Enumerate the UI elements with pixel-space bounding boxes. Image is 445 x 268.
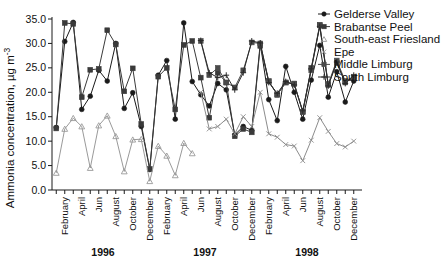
legend-marker [322, 12, 326, 16]
x-axis-month-label: Jun [297, 197, 308, 212]
x-axis-month-label: December [144, 197, 155, 241]
data-point [275, 118, 280, 123]
y-axis-label: Ammonia concentration, µg m-3 [2, 47, 16, 208]
x-axis-month-label: October [331, 197, 342, 231]
data-point [79, 107, 84, 112]
y-tick-label: 30.0 [26, 37, 47, 49]
data-point [326, 95, 331, 100]
data-point [190, 79, 195, 84]
data-point [156, 74, 161, 79]
data-point [130, 90, 135, 95]
y-tick-label: 5.0 [31, 159, 46, 171]
x-axis-month-label: August [212, 197, 223, 227]
data-point [54, 126, 59, 131]
x-axis-month-label: October [229, 197, 240, 231]
x-axis-month-label: August [110, 197, 121, 227]
legend-label: Middle Limburg [334, 58, 413, 70]
x-axis-month-label: December [348, 197, 359, 241]
data-point [190, 39, 195, 44]
x-axis-month-label: April [76, 197, 87, 216]
x-axis-month-label: Jun [195, 197, 206, 212]
x-axis-month-label: October [127, 197, 138, 231]
x-axis-month-label: February [59, 197, 70, 235]
data-point [105, 79, 110, 84]
data-point [122, 89, 127, 94]
data-point [198, 75, 203, 80]
data-point [300, 117, 305, 122]
x-axis-month-label: Jun [93, 197, 104, 212]
y-axis-label-exponent: -3 [2, 47, 12, 55]
y-tick-label: 15.0 [26, 110, 47, 122]
data-point [139, 122, 144, 127]
data-point [249, 130, 254, 135]
data-point [181, 42, 186, 47]
legend-label: Epe [334, 46, 354, 58]
data-point [173, 117, 178, 122]
x-axis-month-label: April [280, 197, 291, 216]
data-point [283, 64, 288, 69]
x-axis-month-label: April [178, 197, 189, 216]
data-point [62, 21, 67, 26]
legend-label: Gelderse Valley [334, 8, 415, 20]
x-axis-year-label: 1996 [91, 246, 115, 258]
data-point [207, 115, 212, 120]
y-tick-label: 25.0 [26, 61, 47, 73]
data-point [164, 58, 169, 63]
legend-item-south-east-friesland[interactable]: South-east Friesland [321, 33, 440, 45]
legend-label: South Limburg [334, 71, 409, 83]
y-tick-label: 0.0 [31, 184, 46, 196]
data-point [88, 67, 93, 72]
legend-label: Brabantse Peel [334, 21, 413, 33]
legend-marker [322, 24, 326, 28]
data-point [79, 95, 84, 100]
y-tick-label: 35.0 [26, 13, 47, 25]
data-point [71, 21, 76, 26]
data-point [266, 97, 271, 102]
data-point [88, 94, 93, 99]
legend-label: South-east Friesland [334, 33, 440, 45]
data-point [173, 107, 178, 112]
data-point [241, 127, 246, 132]
x-axis-year-label: 1998 [295, 246, 319, 258]
data-point [317, 43, 322, 48]
x-axis-year-label: 1997 [193, 246, 217, 258]
svg-text:Ammonia concentration, µg m-3: Ammonia concentration, µg m-3 [2, 47, 16, 208]
data-point [343, 100, 348, 105]
data-point [113, 42, 118, 47]
data-point [215, 65, 220, 70]
x-axis-month-label: August [314, 197, 325, 227]
data-point [181, 21, 186, 26]
x-axis-month-label: February [263, 197, 274, 235]
data-point [96, 66, 101, 71]
x-axis-month-label: February [161, 197, 172, 235]
data-point [130, 66, 135, 71]
y-tick-label: 20.0 [26, 86, 47, 98]
legend-marker [322, 62, 326, 66]
data-point [164, 65, 169, 70]
x-axis-month-label: December [246, 197, 257, 241]
data-point [122, 106, 127, 111]
data-point [224, 80, 229, 85]
data-point [105, 28, 110, 33]
ammonia-concentration-line-chart: Ammonia concentration, µg m-3 0.05.010.0… [0, 0, 445, 268]
y-tick-label: 10.0 [26, 135, 47, 147]
y-axis-label-text: Ammonia concentration, µg m [4, 55, 16, 208]
